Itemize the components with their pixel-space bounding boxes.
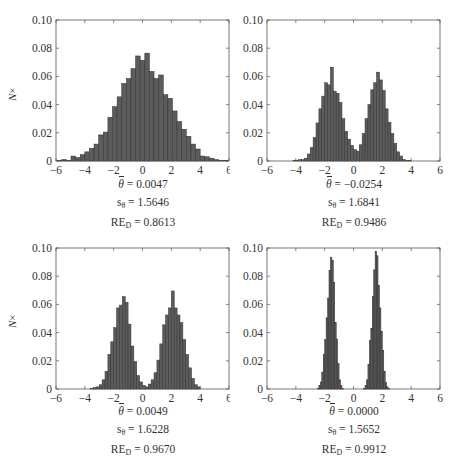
histogram-bar [122,83,127,161]
stats-panel-3: θ = 0.0049 sθ = 1.6228 RED = 0.9670 [56,403,230,462]
histogram-bar [186,136,191,161]
histogram-bar [140,382,143,389]
histogram-bar [313,138,316,161]
histogram-bar [205,157,210,161]
histogram-bar [122,297,125,389]
y-tick-label: 0.04 [32,99,52,111]
histogram-bar [172,111,177,161]
histogram-bar [310,148,313,161]
y-tick-label: 0.02 [32,127,52,139]
s-theta-row: sθ = 1.5652 [267,421,441,442]
histogram-bar [119,305,122,389]
histogram-bar [145,53,150,161]
histogram-bar [307,154,310,161]
x-tick-label: 2 [379,164,385,176]
axes-frame [267,20,440,161]
x-tick-label: −2 [108,164,120,176]
y-tick-label: 0.10 [32,242,52,254]
y-tick-label: 0 [46,383,52,395]
y-tick-label: 0.06 [32,70,52,82]
histogram-bar [391,134,394,162]
y-tick-label: 0.04 [32,327,52,339]
y-tick-label: 0.10 [243,14,263,26]
histogram-bar [359,145,362,161]
stats-panel-2: θ = −0.0254 sθ = 1.6841 RED = 0.9486 [267,176,441,235]
histogram-bar [108,354,111,389]
x-tick-label: 4 [408,164,414,176]
re-d-row: RED = 0.9670 [56,441,230,462]
histogram-bar [160,344,163,389]
histogram-bar [117,97,122,161]
histogram-bar [325,83,328,161]
x-tick-label: 2 [168,164,174,176]
x-tick-label: 0 [351,164,357,176]
y-tick-label: 0.06 [243,298,263,310]
y-tick-label: 0.08 [32,42,52,54]
s-theta-row: sθ = 1.6228 [56,421,230,442]
y-tick-label: 0.08 [243,42,263,54]
histogram-bar [365,119,368,161]
histogram-bar [394,143,397,161]
histogram-bar [191,144,196,161]
histogram-bar [137,376,140,389]
histogram-panel-4: −6−4−2024600.020.040.060.080.10 [211,228,457,408]
histogram-bar [113,107,118,161]
histogram-bars [293,67,411,161]
histogram-bar [194,385,197,389]
histogram-bar [345,131,348,161]
histogram-bar [379,80,382,161]
s-theta-row: sθ = 1.6841 [267,194,441,215]
y-tick-label: 0.10 [243,242,263,254]
y-tick-label: 0.04 [243,327,263,339]
histogram-bar [168,308,171,389]
histogram-bar [177,315,180,389]
theta-mean-row: θ = 0.0049 [56,403,230,421]
x-tick-label: 4 [197,164,203,176]
histogram-bar [189,368,192,389]
histogram-bars [57,53,228,161]
histogram-bar [149,71,154,161]
y-tick-label: 0.04 [243,99,263,111]
s-theta-row: sθ = 1.5646 [56,194,230,215]
histogram-bar [105,371,108,389]
histogram-bar [76,157,81,161]
histogram-bar [126,79,131,161]
y-tick-label: 0 [46,155,52,167]
histogram-bar [180,323,183,389]
histogram-bar [85,152,90,161]
histogram-panel-2: −6−4−2024600.020.040.060.080.10 [211,0,457,180]
histogram-bar [171,291,174,389]
y-tick-label: 0.02 [32,355,52,367]
histogram-bar [336,93,339,161]
histogram-panel-3: −6−4−2024600.020.040.060.080.10 [0,228,230,408]
histogram-bar [71,156,76,161]
histogram-bar [154,373,157,389]
y-tick-label: 0 [257,155,263,167]
y-axis-label-panel-3: N× [6,304,18,328]
histogram-bar [128,324,131,389]
histogram-bar [131,69,136,161]
histogram-bar [400,156,403,161]
y-tick-label: 0.08 [243,270,263,282]
histogram-bar [354,150,357,161]
y-tick-label: 0.08 [32,270,52,282]
histogram-bar [136,56,141,161]
histogram-bar [322,96,325,161]
histogram-bar [368,105,371,161]
histogram-bar [111,342,114,389]
histogram-bar [163,95,168,161]
histogram-bar [148,384,151,389]
histogram-bar [356,151,359,161]
histogram-bar [200,156,205,161]
histogram-bar [125,302,128,389]
x-tick-label: −2 [319,164,331,176]
histogram-bar [362,134,365,162]
histogram-bar [177,122,182,161]
histogram-bar [108,117,113,161]
x-tick-label: 6 [437,164,443,176]
y-tick-label: 0.10 [32,14,52,26]
y-tick-label: 0 [257,383,263,395]
histogram-bar [151,380,154,389]
histogram-bar [192,378,195,389]
theta-mean-row: θ = −0.0254 [267,176,441,194]
